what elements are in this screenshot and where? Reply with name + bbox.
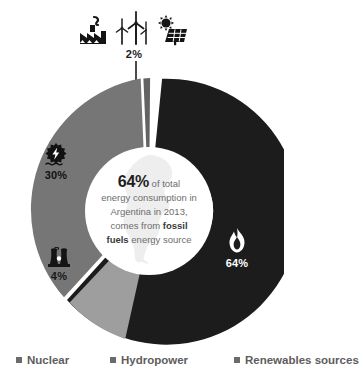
solar-panel-icon xyxy=(156,14,188,50)
hydropower-segment-label: 30% xyxy=(34,142,78,181)
hydropower-icon xyxy=(34,142,78,168)
center-description: 64% of total energy consumption in Argen… xyxy=(90,175,208,247)
legend-label-hydropower: Hydropower xyxy=(121,354,188,366)
legend-label-nuclear: Nuclear xyxy=(27,354,69,366)
center-hub: 64% of total energy consumption in Argen… xyxy=(85,147,213,275)
wind-turbine-icon xyxy=(115,10,149,50)
legend-item-nuclear[interactable]: Nuclear xyxy=(16,354,69,366)
legend-swatch-renewables-sources xyxy=(234,357,240,363)
legend-item-hydropower[interactable]: Hydropower xyxy=(110,354,188,366)
hydropower-percent-label: 30% xyxy=(45,169,68,181)
legend-item-renewables-sources[interactable]: Renewables sources xyxy=(234,354,359,366)
center-line5-bold: fuels xyxy=(106,234,128,245)
flame-icon xyxy=(215,228,259,256)
renewable-icons-group xyxy=(78,10,188,50)
legend-swatch-hydropower xyxy=(110,357,116,363)
center-line4-bold: fossil xyxy=(163,220,188,231)
legend-swatch-nuclear xyxy=(16,357,22,363)
renewables-percent-label: 2% xyxy=(112,48,156,60)
center-line3: Argentina in 2013, xyxy=(110,206,187,217)
biomass-factory-icon xyxy=(78,14,108,50)
legend-label-renewables-sources: Renewables sources xyxy=(245,354,359,366)
nuclear-plant-icon xyxy=(34,247,84,269)
center-line2: energy consumption in xyxy=(101,192,197,203)
nuclear-percent-label: 4% xyxy=(51,270,67,282)
center-line1-rest: of total xyxy=(149,178,180,189)
center-big-value: 64% xyxy=(118,173,149,190)
fossil-fuels-segment-label: 64% xyxy=(215,228,259,269)
center-line4-pre: comes from xyxy=(110,220,162,231)
center-line5-rest: energy source xyxy=(129,234,192,245)
chart-legend: Nuclear Hydropower Renewables sources xyxy=(0,352,353,374)
fossil-fuels-percent-label: 64% xyxy=(226,257,249,269)
nuclear-segment-label: 4% xyxy=(34,247,84,282)
